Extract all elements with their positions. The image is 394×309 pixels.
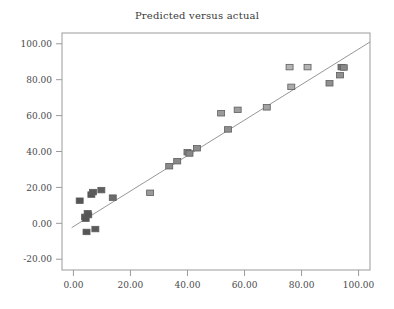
data-point-marker	[234, 107, 241, 113]
y-axis-tick-label: 60.00	[26, 111, 52, 121]
x-axis-tick-label: 80.00	[289, 280, 315, 290]
data-point-marker	[326, 81, 333, 87]
data-point-marker	[92, 226, 99, 232]
data-point-marker	[288, 84, 295, 90]
data-point-marker	[76, 198, 83, 204]
data-point-marker	[263, 105, 270, 111]
y-axis-tick-label: 0.00	[32, 219, 52, 229]
data-point-marker	[83, 229, 90, 235]
y-axis-tick-label: 100.00	[21, 39, 53, 49]
y-axis-tick-label: -20.00	[23, 254, 52, 264]
data-point-marker	[286, 64, 293, 70]
chart-figure: Predicted versus actual -20.000.0020.004…	[0, 0, 394, 309]
data-point-marker	[218, 111, 225, 117]
data-point-marker	[193, 146, 200, 152]
data-point-marker	[90, 189, 97, 195]
data-point-marker	[109, 195, 116, 201]
x-axis-tick-label: 100.00	[343, 280, 375, 290]
y-axis-tick-label: 80.00	[26, 75, 52, 85]
data-point-marker	[186, 151, 193, 157]
scatter-plot: -20.000.0020.0040.0060.0080.00100.000.00…	[0, 0, 394, 309]
plot-frame	[62, 33, 370, 270]
data-point-marker	[85, 212, 92, 218]
data-point-marker	[147, 190, 154, 196]
data-point-marker	[304, 64, 311, 70]
x-axis-tick-label: 20.00	[118, 280, 144, 290]
data-point-marker	[224, 127, 231, 133]
data-point-marker	[340, 65, 347, 71]
data-point-marker	[166, 163, 173, 169]
data-point-marker	[337, 72, 344, 78]
data-point-marker	[98, 187, 105, 193]
x-axis-tick-label: 60.00	[232, 280, 258, 290]
x-axis-tick-label: 40.00	[175, 280, 201, 290]
y-axis-tick-label: 40.00	[26, 147, 52, 157]
x-axis-tick-label: 0.00	[63, 280, 83, 290]
data-point-marker	[174, 158, 181, 164]
y-axis-tick-label: 20.00	[26, 183, 52, 193]
